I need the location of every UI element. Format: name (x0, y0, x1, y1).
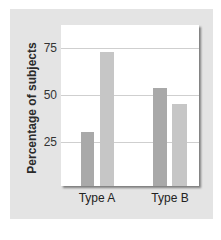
x-label-type-a: Type A (67, 191, 127, 205)
gridline-75 (61, 48, 199, 49)
bar-type-b-series-2 (172, 104, 187, 186)
bar-type-a-series-1 (81, 132, 94, 186)
x-label-type-b: Type B (140, 191, 200, 205)
bar-type-b-series-1 (153, 88, 167, 186)
y-axis-label: Percentage of subjects (25, 42, 39, 173)
gridline-50 (61, 95, 199, 96)
plot-area (61, 25, 199, 186)
bar-type-a-series-2 (100, 52, 114, 186)
